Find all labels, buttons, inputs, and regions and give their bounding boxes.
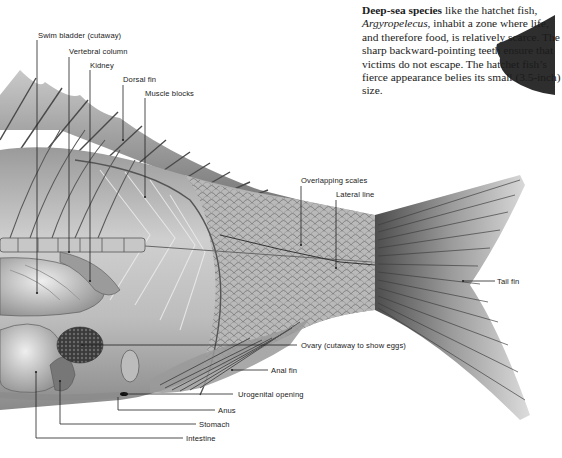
label-anal-fin: Anal fin bbox=[271, 366, 297, 375]
label-intestine: Intestine bbox=[186, 434, 216, 443]
label-tail-fin: Tail fin bbox=[497, 277, 519, 286]
label-swim-bladder: Swim bladder (cutaway) bbox=[38, 31, 121, 40]
label-ovary: Ovary (cutaway to show eggs) bbox=[301, 341, 406, 350]
label-stomach: Stomach bbox=[199, 420, 230, 429]
hatchet-fish-caption: Deep-sea species like the hatchet fish, … bbox=[362, 4, 562, 98]
label-dorsal-fin: Dorsal fin bbox=[123, 75, 156, 84]
label-muscle-blocks: Muscle blocks bbox=[145, 89, 194, 98]
label-kidney: Kidney bbox=[90, 61, 114, 70]
label-anus: Anus bbox=[218, 406, 236, 415]
label-overlapping-scales: Overlapping scales bbox=[301, 176, 367, 185]
caption-text-1: like the hatchet fish, bbox=[442, 4, 537, 16]
tail-fin bbox=[375, 175, 530, 420]
label-urogenital-opening: Urogenital opening bbox=[238, 390, 304, 399]
label-vertebral-column: Vertebral column bbox=[69, 47, 128, 56]
label-lateral-line: Lateral line bbox=[336, 190, 374, 199]
caption-species: Argyropelecus bbox=[362, 17, 428, 29]
caption-lead: Deep-sea species bbox=[362, 4, 442, 16]
